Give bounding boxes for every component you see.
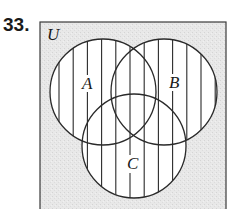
set-c-label: C <box>127 154 139 173</box>
set-a-label: A <box>81 74 93 93</box>
venn-diagram: U A B C <box>0 0 233 209</box>
universe-label: U <box>47 25 61 44</box>
set-b-label: B <box>169 73 180 92</box>
